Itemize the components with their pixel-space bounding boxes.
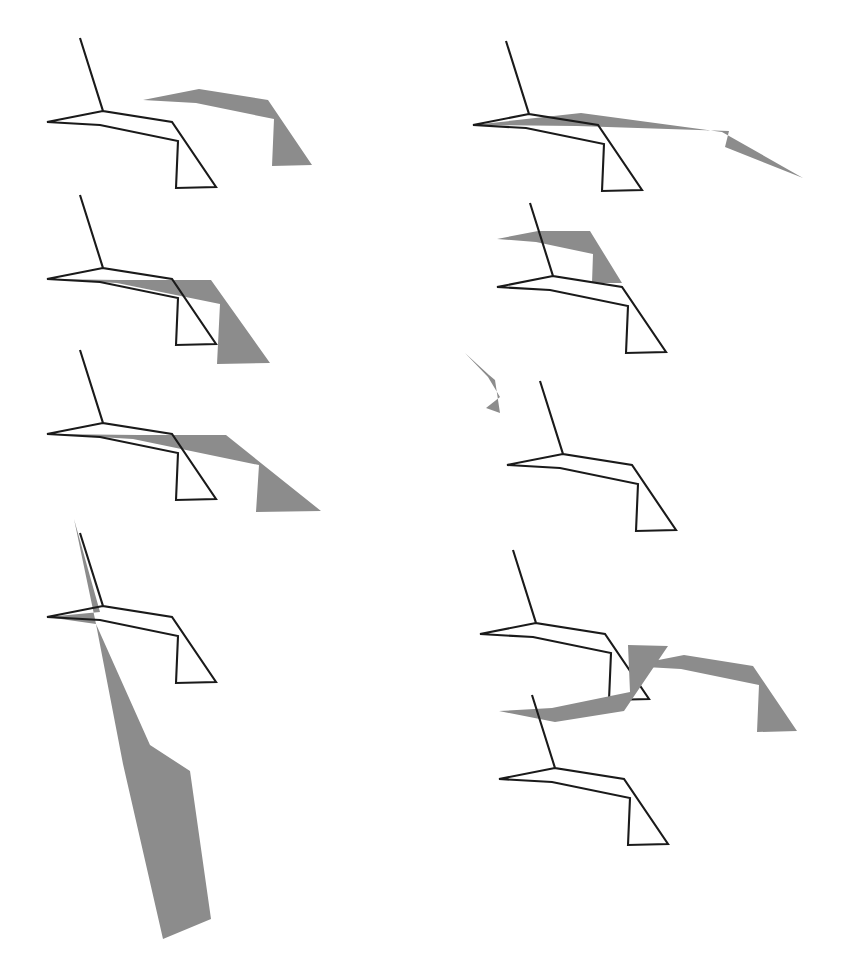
figure-background (0, 0, 841, 971)
shape-transformation-figure (0, 0, 841, 971)
figure-root (0, 0, 841, 971)
